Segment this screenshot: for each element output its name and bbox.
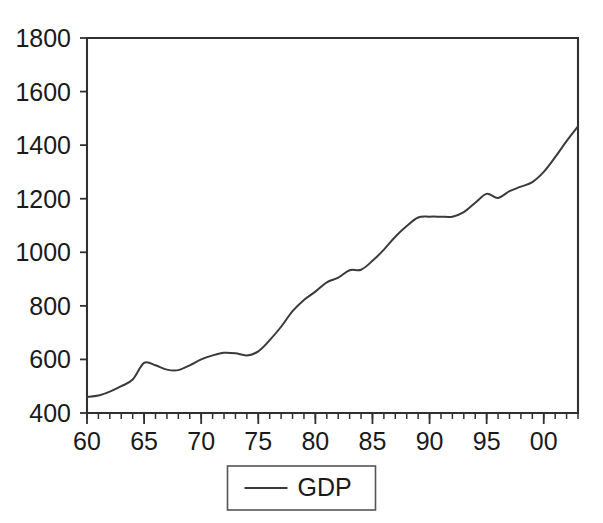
y-tick-label: 800 bbox=[29, 292, 71, 320]
x-tick-label: 65 bbox=[130, 427, 158, 455]
chart-container: 18001600140012001000800600400 6065707580… bbox=[0, 0, 603, 523]
y-tick-label: 1600 bbox=[15, 78, 71, 106]
x-tick-label: 90 bbox=[416, 427, 444, 455]
y-tick-label: 1800 bbox=[15, 24, 71, 52]
x-tick-label: 60 bbox=[73, 427, 101, 455]
y-tick-label: 1200 bbox=[15, 185, 71, 213]
y-tick-label: 400 bbox=[29, 399, 71, 427]
legend-label-gdp: GDP bbox=[298, 473, 352, 501]
x-tick-label: 75 bbox=[244, 427, 272, 455]
x-tick-label: 00 bbox=[530, 427, 558, 455]
chart-legend: GDP bbox=[228, 466, 376, 510]
y-tick-label: 1400 bbox=[15, 131, 71, 159]
x-tick-label: 70 bbox=[187, 427, 215, 455]
x-axis-tick-labels: 606570758085909500 bbox=[73, 427, 558, 455]
x-tick-label: 85 bbox=[359, 427, 387, 455]
gdp-line-chart: 18001600140012001000800600400 6065707580… bbox=[0, 0, 603, 523]
y-tick-label: 1000 bbox=[15, 238, 71, 266]
x-tick-label: 95 bbox=[473, 427, 501, 455]
x-tick-label: 80 bbox=[301, 427, 329, 455]
y-tick-label: 600 bbox=[29, 345, 71, 373]
